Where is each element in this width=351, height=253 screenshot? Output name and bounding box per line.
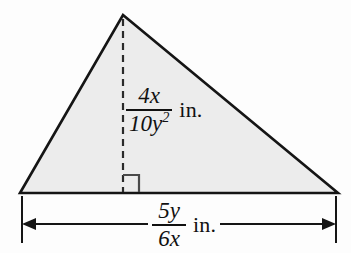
base-fraction: 5y 6x: [152, 199, 186, 251]
base-numerator: 5y: [155, 199, 183, 223]
base-label: 5y 6x in.: [148, 199, 220, 251]
height-label: 4x 10y2 in.: [126, 84, 203, 136]
arrowhead-left-icon: [22, 218, 36, 230]
height-denominator-base: 10y: [129, 111, 162, 136]
height-numerator: 4x: [135, 84, 163, 108]
base-unit: in.: [193, 214, 216, 236]
arrowhead-right-icon: [322, 218, 336, 230]
height-denominator: 10y2: [126, 112, 172, 136]
height-fraction: 4x 10y2: [126, 84, 172, 136]
triangle-area-diagram: 4x 10y2 in. 5y 6x in.: [0, 0, 351, 253]
base-denominator: 6x: [155, 227, 183, 251]
height-unit: in.: [179, 99, 202, 121]
height-denominator-exponent: 2: [162, 109, 169, 125]
